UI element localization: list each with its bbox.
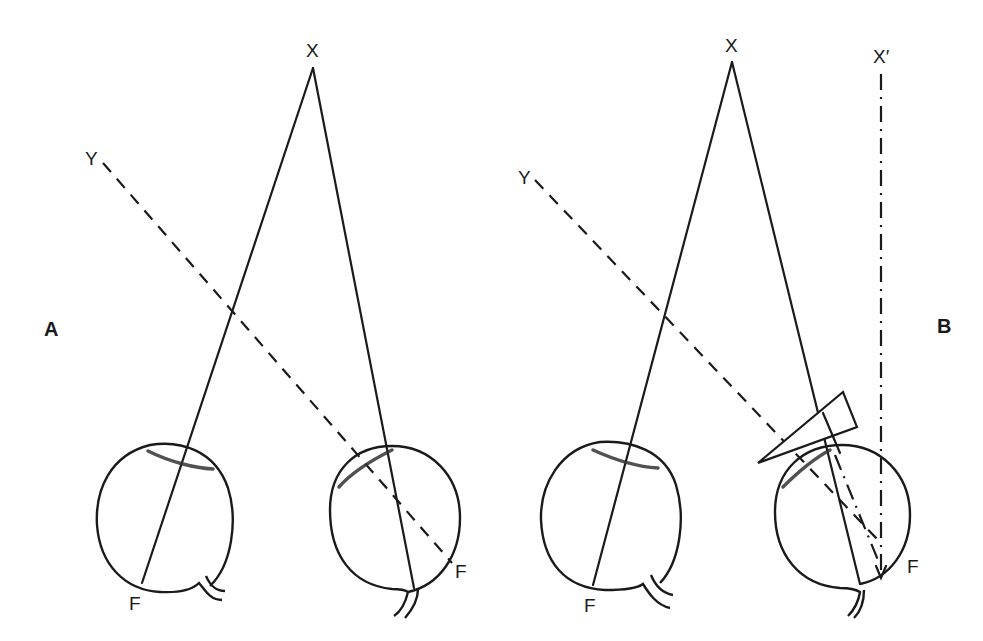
panel-label-a: A: [44, 318, 58, 340]
fovea-label-right-a: F: [455, 561, 467, 582]
eyeball-outline: [330, 446, 460, 616]
left-eye-visual-axis: [142, 68, 313, 583]
right-eye: F: [330, 446, 467, 618]
panel-b: B X X′ Y F F: [518, 35, 951, 618]
strabismus-prism-diagram: A X Y F F B X X′: [0, 0, 983, 641]
deviated-eye-axis: [535, 180, 878, 540]
left-eye-visual-axis: [593, 62, 732, 585]
deviated-eye-axis: [103, 163, 452, 563]
secondary-target-label-y: Y: [518, 167, 531, 188]
lens-icon: [339, 450, 392, 487]
target-label-x: X: [725, 35, 738, 56]
right-eye-visual-axis: [313, 68, 414, 588]
panel-a: A X Y F F: [44, 40, 467, 618]
eyeball-outline: [541, 442, 681, 608]
secondary-target-label-y: Y: [85, 148, 98, 169]
target-label-x: X: [306, 40, 319, 61]
fovea-label-right-b: F: [907, 556, 919, 577]
fovea-label-left-a: F: [129, 593, 141, 614]
fovea-label-left-b: F: [584, 595, 596, 616]
optic-nerve: [651, 575, 673, 595]
projected-target-label: X′: [873, 46, 890, 67]
left-eye: F: [97, 444, 233, 614]
panel-label-b: B: [937, 315, 951, 337]
right-eye-visual-axis: [732, 62, 860, 584]
left-eye: F: [541, 442, 681, 616]
eyeball-outline: [775, 445, 910, 616]
